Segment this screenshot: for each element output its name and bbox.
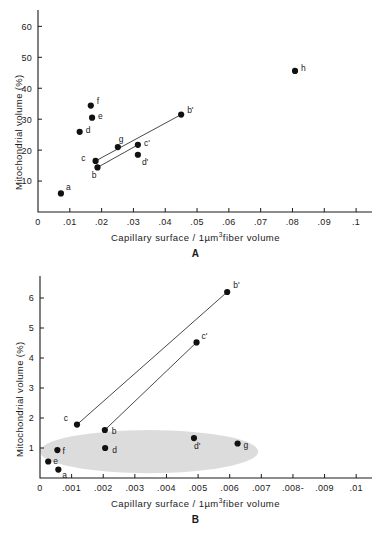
x-tick-label: .04 <box>159 217 172 227</box>
data-point <box>45 458 51 464</box>
panel-b-letter: B <box>0 514 391 525</box>
y-tick-label: 6 <box>29 293 34 303</box>
panel-a-y-axis-title: Mitochondrial volume (%) <box>13 74 24 190</box>
panel-a: 0.01.02.03.04.05.06.07.08.09.11020304050… <box>0 0 391 268</box>
x-axis-title-prefix: Capillary surface / 1µm <box>111 498 219 509</box>
x-tick-label: .005 <box>189 483 208 493</box>
x-tick-label: .004 <box>157 483 176 493</box>
data-point <box>292 68 298 74</box>
x-axis-title-suffix: fiber volume <box>223 232 280 243</box>
x-tick-label: .08 <box>286 217 299 227</box>
connector-line <box>105 342 197 430</box>
x-tick-label: .009 <box>315 483 334 493</box>
data-point-label: c <box>81 153 86 163</box>
data-point <box>135 142 141 148</box>
x-tick-label: .001 <box>62 483 81 493</box>
x-axis-title-suffix: fiber volume <box>223 498 280 509</box>
panel-a-x-axis-title: Capillary surface / 1µm3fiber volume <box>0 231 391 243</box>
data-point-label: e <box>53 456 58 466</box>
y-tick-label: 1 <box>29 443 34 453</box>
x-tick-label: .007 <box>252 483 271 493</box>
figure-root: 0.01.02.03.04.05.06.07.08.09.11020304050… <box>0 0 391 535</box>
data-point-label: d <box>86 125 91 135</box>
data-point-label: c <box>64 413 69 423</box>
data-point <box>102 445 108 451</box>
axis-spine <box>38 10 372 212</box>
connector-line <box>77 292 227 425</box>
panel-a-plot: 0.01.02.03.04.05.06.07.08.09.11020304050… <box>0 0 391 268</box>
x-tick-label: .07 <box>254 217 267 227</box>
data-point-label: f <box>97 96 100 106</box>
x-tick-label: .003 <box>125 483 144 493</box>
x-tick-label: .05 <box>190 217 203 227</box>
data-point-label: g <box>119 134 124 144</box>
plot-area: 0.01.02.03.04.05.06.07.08.09.11020304050… <box>21 10 372 227</box>
data-point-label: b <box>112 426 117 436</box>
data-point <box>54 447 60 453</box>
plot-area: 0.001.002.003.004.005.006.007.008-.009.0… <box>29 276 372 493</box>
data-point <box>224 289 230 295</box>
y-tick-label: 4 <box>29 353 34 363</box>
x-tick-label: .09 <box>318 217 331 227</box>
y-tick-label: 60 <box>21 22 32 32</box>
data-point-label: a <box>66 182 71 192</box>
data-point-label: b' <box>233 280 240 290</box>
shaded-cluster-region <box>40 430 258 473</box>
data-point-label: b <box>92 170 97 180</box>
x-tick-label: .006 <box>220 483 239 493</box>
x-tick-label: .02 <box>95 217 108 227</box>
data-point <box>178 111 184 117</box>
data-point <box>55 467 61 473</box>
y-tick-label: 5 <box>29 323 34 333</box>
data-point-label: g <box>244 440 249 450</box>
data-point-label: d' <box>142 157 149 167</box>
data-point-label: d <box>112 445 117 455</box>
data-point-label: e <box>98 111 103 121</box>
panel-b-plot: 0.001.002.003.004.005.006.007.008-.009.0… <box>0 265 391 535</box>
data-point-label: d' <box>194 441 201 451</box>
x-tick-label: .03 <box>127 217 140 227</box>
x-tick-label: .06 <box>222 217 235 227</box>
data-point <box>92 158 98 164</box>
data-point <box>235 440 241 446</box>
data-point <box>102 427 108 433</box>
panel-b-x-axis-title: Capillary surface / 1µm3fiber volume <box>0 497 391 509</box>
y-tick-label: 3 <box>29 383 34 393</box>
x-tick-label: 0 <box>37 483 42 493</box>
data-point <box>89 115 95 121</box>
data-point <box>115 144 121 150</box>
x-axis-title-prefix: Capillary surface / 1µm <box>111 232 219 243</box>
x-tick-label: 0 <box>35 217 40 227</box>
data-point <box>135 152 141 158</box>
y-tick-label: 50 <box>21 53 32 63</box>
x-tick-label: .1 <box>352 217 360 227</box>
data-point <box>88 102 94 108</box>
data-point-label: c' <box>202 331 208 341</box>
x-tick-label: .01 <box>63 217 76 227</box>
data-point-label: c' <box>144 138 150 148</box>
panel-b-y-axis-title: Mitochondrial volume (%) <box>14 341 25 457</box>
data-point-label: a <box>62 470 67 480</box>
x-tick-label: .002 <box>94 483 113 493</box>
data-point <box>193 339 199 345</box>
data-point <box>58 190 64 196</box>
data-point <box>74 422 80 428</box>
data-point-label: h <box>301 63 306 73</box>
data-point <box>77 129 83 135</box>
data-point-label: b' <box>187 105 194 115</box>
x-tick-label: .008- <box>282 483 304 493</box>
x-tick-label: .01 <box>349 483 362 493</box>
y-tick-label: 2 <box>29 413 34 423</box>
panel-a-letter: A <box>0 248 391 259</box>
panel-b: 0.001.002.003.004.005.006.007.008-.009.0… <box>0 265 391 535</box>
